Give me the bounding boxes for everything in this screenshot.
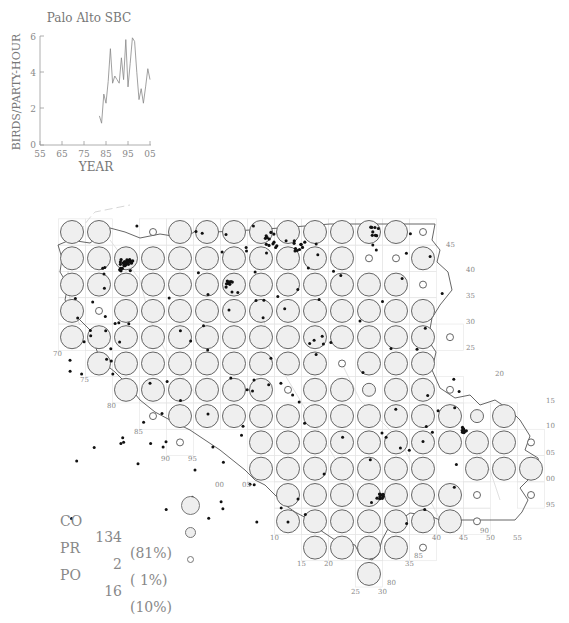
- grid-label: 20: [495, 370, 504, 378]
- confirmed-circle: [304, 457, 327, 480]
- grid-label: 20: [324, 560, 333, 568]
- confirmed-circle: [304, 299, 327, 322]
- grid-label: 45: [459, 534, 468, 542]
- possible-circle: [420, 544, 427, 551]
- legend-item-co: CO 134 (81%): [60, 497, 78, 517]
- grid-label: 10: [546, 422, 555, 430]
- confirmed-circle: [304, 273, 327, 296]
- confirmed-circle: [142, 273, 165, 296]
- confirmed-circle: [358, 431, 381, 454]
- legend-percent: (10%): [130, 599, 172, 615]
- grid-label: 45: [446, 241, 455, 249]
- possible-circle: [420, 229, 427, 236]
- svg-text:05: 05: [144, 149, 156, 159]
- confirmed-circle: [250, 352, 273, 375]
- confirmed-circle: [142, 378, 165, 401]
- confirmed-circle: [358, 326, 381, 349]
- confirmed-circle: [385, 273, 408, 296]
- possible-circle: [150, 413, 157, 420]
- confirmed-circle: [250, 247, 273, 270]
- legend-count: 2: [94, 556, 122, 572]
- svg-text:65: 65: [56, 149, 68, 159]
- confirmed-circle: [358, 484, 381, 507]
- possible-circle: [528, 492, 535, 499]
- confirmed-circle: [277, 273, 300, 296]
- confirmed-circle: [250, 431, 273, 454]
- legend-count: 16: [94, 583, 122, 599]
- confirmed-circle: [142, 352, 165, 375]
- confirmed-circle: [88, 273, 111, 296]
- possible-circle: [393, 255, 400, 262]
- confirmed-circle: [493, 431, 516, 454]
- confirmed-circle: [412, 326, 435, 349]
- grid-label: 85: [414, 552, 423, 560]
- confirmed-circle: [169, 299, 192, 322]
- confirmed-circle: [304, 247, 327, 270]
- possible-circle: [339, 360, 346, 367]
- grid-label: 35: [466, 292, 475, 300]
- grid-label: 05: [546, 449, 555, 457]
- small-circle-icon: [187, 556, 194, 563]
- grid-label: 55: [513, 534, 522, 542]
- confirmed-circle: [331, 273, 354, 296]
- confirmed-circle: [223, 247, 246, 270]
- confirmed-circle: [331, 378, 354, 401]
- confirmed-circle: [304, 431, 327, 454]
- legend-percent: (81%): [130, 545, 172, 561]
- probable-circle: [363, 383, 376, 396]
- grid-label: 80: [387, 579, 396, 587]
- confirmed-circle: [385, 299, 408, 322]
- confirmed-circle: [412, 484, 435, 507]
- confirmed-circle: [250, 405, 273, 428]
- legend-item-po: PO 16 (10%): [60, 551, 78, 571]
- grid-label: 90: [161, 455, 170, 463]
- confirmed-circle: [169, 378, 192, 401]
- confirmed-circle: [169, 247, 192, 270]
- confirmed-circle: [277, 352, 300, 375]
- confirmed-circle: [61, 299, 84, 322]
- confirmed-circle: [331, 221, 354, 244]
- confirmed-circle: [520, 457, 543, 480]
- possible-circle: [177, 439, 184, 446]
- grid-label: 00: [215, 481, 224, 489]
- confirmed-circle: [331, 326, 354, 349]
- possible-circle: [150, 229, 157, 236]
- confirmed-circle: [61, 221, 84, 244]
- confirmed-circle: [304, 405, 327, 428]
- confirmed-circle: [358, 510, 381, 533]
- x-axis: [40, 141, 151, 145]
- confirmed-circle: [412, 378, 435, 401]
- data-line: [99, 38, 150, 123]
- confirmed-circle: [358, 352, 381, 375]
- possible-circle: [447, 386, 454, 393]
- confirmed-circle: [277, 326, 300, 349]
- confirmed-circle: [115, 378, 138, 401]
- confirmed-circle: [412, 405, 435, 428]
- svg-text:85: 85: [100, 149, 112, 159]
- confirmed-circle: [358, 273, 381, 296]
- grid-label: 85: [134, 428, 143, 436]
- grid-label: 50: [486, 534, 495, 542]
- possible-circle: [420, 281, 427, 288]
- confirmed-circle: [412, 247, 435, 270]
- confirmed-circle: [142, 326, 165, 349]
- confirmed-circle: [277, 299, 300, 322]
- confirmed-circle: [196, 273, 219, 296]
- confirmed-circle: [196, 326, 219, 349]
- confirmed-circle: [169, 221, 192, 244]
- confirmed-circle: [250, 299, 273, 322]
- confirmed-circle: [331, 247, 354, 270]
- svg-text:55: 55: [34, 149, 46, 159]
- confirmed-circle: [115, 352, 138, 375]
- confirmed-circle: [277, 431, 300, 454]
- confirmed-circle: [223, 221, 246, 244]
- confirmed-circle: [196, 352, 219, 375]
- confirmed-circle: [88, 221, 111, 244]
- confirmed-circle: [223, 299, 246, 322]
- confirmed-circle: [196, 247, 219, 270]
- confirmed-circle: [304, 378, 327, 401]
- confirmed-circle: [304, 221, 327, 244]
- confirmed-circle: [277, 457, 300, 480]
- confirmed-circle: [385, 352, 408, 375]
- svg-text:6: 6: [30, 32, 36, 42]
